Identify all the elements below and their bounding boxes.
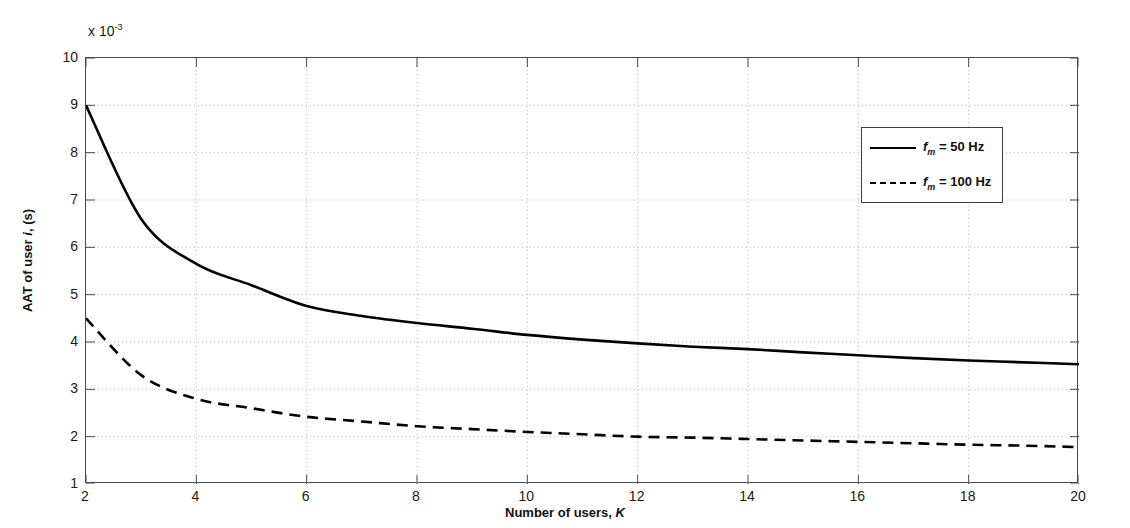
legend-line-sample-dashed-icon: [870, 176, 916, 190]
y-axis-tick-labels: 12345678910: [38, 0, 78, 528]
legend-item-1: fm = 100 Hz: [862, 166, 1004, 200]
legend-rest-0: = 50 Hz: [935, 139, 984, 154]
series-line-1: [86, 318, 1079, 447]
legend-label-1: fm = 100 Hz: [923, 174, 991, 192]
legend-item-0: fm = 50 Hz: [862, 131, 1004, 165]
y-axis-exponent-mantissa: x 10: [88, 23, 114, 39]
y-axis-title-post: , (s): [20, 209, 35, 232]
y-tick-label: 5: [40, 286, 78, 302]
x-tick-label: 4: [175, 488, 215, 504]
plot-svg: [86, 58, 1079, 484]
y-axis-title: AAT of user i, (s): [20, 171, 35, 351]
x-axis-title: Number of users, K: [0, 505, 1130, 520]
legend-label-0: fm = 50 Hz: [923, 139, 984, 157]
y-axis-exponent-power: -3: [114, 22, 122, 32]
y-tick-label: 8: [40, 144, 78, 160]
y-tick-label: 7: [40, 191, 78, 207]
y-tick-label: 9: [40, 96, 78, 112]
y-tick-label: 10: [40, 49, 78, 65]
figure-canvas: x 10-3 AAT of user i, (s) 12345678910 24…: [0, 0, 1130, 528]
y-axis-title-pre: AAT of user: [20, 239, 35, 312]
legend-box: fm = 50 Hz fm = 100 Hz: [861, 127, 1003, 203]
x-tick-label: 18: [948, 488, 988, 504]
x-axis-title-plain: Number of users,: [505, 505, 612, 520]
x-tick-label: 2: [65, 488, 105, 504]
x-tick-label: 8: [396, 488, 436, 504]
y-tick-label: 3: [40, 380, 78, 396]
y-tick-label: 2: [40, 428, 78, 444]
y-tick-label: 6: [40, 238, 78, 254]
y-axis-title-italic: i: [20, 232, 35, 236]
legend-rest-1: = 100 Hz: [935, 174, 991, 189]
y-tick-label: 4: [40, 333, 78, 349]
x-axis-title-italic: K: [616, 505, 625, 520]
plot-area: [85, 57, 1078, 483]
x-tick-label: 6: [286, 488, 326, 504]
y-axis-exponent-label: x 10-3: [88, 22, 122, 39]
x-tick-label: 12: [617, 488, 657, 504]
gridlines: [86, 58, 1079, 484]
legend-line-sample-solid-icon: [870, 141, 916, 155]
x-tick-label: 10: [506, 488, 546, 504]
x-tick-label: 14: [727, 488, 767, 504]
x-tick-label: 16: [837, 488, 877, 504]
x-tick-label: 20: [1058, 488, 1098, 504]
axis-tick-marks: [86, 58, 1079, 484]
